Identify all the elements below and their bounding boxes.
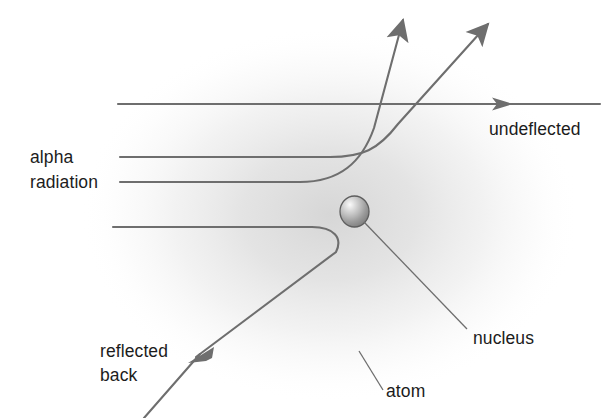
reflected-label-line2: back bbox=[100, 365, 138, 385]
reflected-label-line1: reflected bbox=[100, 341, 168, 361]
alpha-label-line1: alpha bbox=[30, 147, 73, 167]
alpha-label-line2: radiation bbox=[30, 172, 98, 192]
nucleus-label: nucleus bbox=[473, 328, 534, 348]
atom-label: atom bbox=[386, 381, 425, 401]
scattering-canvas: alpha radiation undeflected reflected ba… bbox=[0, 0, 614, 418]
undeflected-label: undeflected bbox=[489, 119, 581, 139]
trajectory-back-scattered-tail bbox=[144, 354, 200, 418]
rutherford-scattering-diagram: alpha radiation undeflected reflected ba… bbox=[0, 0, 614, 418]
